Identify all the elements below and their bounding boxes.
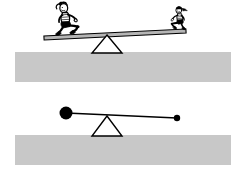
figure-canvas — [0, 0, 242, 174]
seesaw-lever-figure — [0, 0, 242, 174]
mass-right-small — [174, 115, 180, 121]
child-right — [171, 6, 187, 29]
lever-beam — [66, 113, 177, 118]
child-left — [56, 1, 79, 35]
mass-left-large — [60, 107, 73, 120]
seesaw-panel — [15, 1, 231, 82]
ground-band-lower — [15, 135, 231, 165]
fulcrum-lower — [92, 116, 122, 136]
ground-band-upper — [15, 52, 231, 82]
lever-panel — [15, 107, 231, 166]
seesaw-plank — [44, 29, 186, 40]
